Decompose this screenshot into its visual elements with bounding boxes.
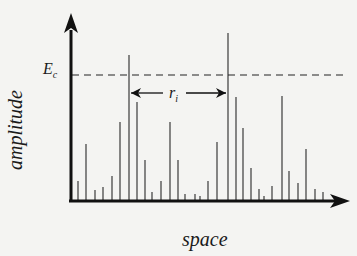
threshold-label: Ec (43, 60, 57, 80)
interval-arrow (131, 88, 226, 98)
interval-label: ri (169, 84, 178, 104)
x-axis-label: space (182, 228, 228, 251)
y-axis-label: amplitude (4, 90, 27, 170)
spike-amplitude-diagram (0, 0, 357, 256)
amplitude-spikes (78, 33, 323, 201)
